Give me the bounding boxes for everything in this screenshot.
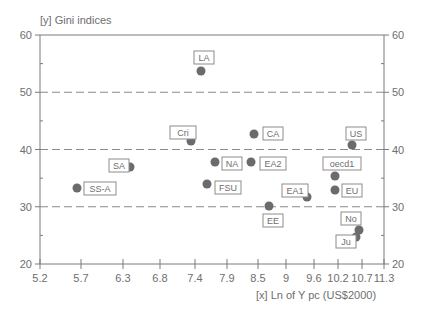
point-label: oecd1 — [330, 159, 355, 169]
point-label: SS-A — [89, 184, 110, 194]
x-tick-label: 7.9 — [219, 272, 234, 284]
data-point-cri: Cri — [170, 126, 196, 146]
point-marker — [211, 158, 220, 167]
data-point-ea2: EA2 — [247, 157, 287, 170]
point-marker — [265, 202, 274, 211]
data-point-ca: CA — [250, 127, 284, 140]
point-label: CA — [267, 129, 280, 139]
point-marker — [197, 67, 206, 76]
data-point-ea1: EA1 — [282, 184, 312, 202]
y-tick-label-right: 40 — [392, 144, 404, 156]
y-tick-label: 50 — [20, 86, 32, 98]
x-axis-title: [x] Ln of Y pc (US$2000) — [256, 289, 376, 301]
point-marker — [331, 186, 340, 195]
point-marker — [331, 172, 340, 181]
y-tick-label-right: 50 — [392, 86, 404, 98]
data-point-fsu: FSU — [203, 180, 242, 195]
x-tick-label: 7.4 — [187, 272, 202, 284]
x-tick-label: 11.3 — [374, 272, 395, 284]
point-label: FSU — [219, 183, 237, 193]
point-label: Ju — [341, 237, 351, 247]
x-tick-label: 6.3 — [115, 272, 130, 284]
data-point-ss-a: SS-A — [73, 182, 117, 195]
x-tick-label: 10.2 — [327, 272, 348, 284]
point-label: EA2 — [264, 159, 281, 169]
y-tick-label: 60 — [20, 29, 32, 41]
point-marker — [73, 184, 82, 193]
x-tick-label: 5.2 — [32, 272, 47, 284]
x-tick-label: 9 — [283, 272, 289, 284]
scatter-chart: [y] Gini indices [x] Ln of Y pc (US$2000… — [0, 0, 423, 317]
point-label: LA — [198, 53, 209, 63]
point-label: NA — [226, 159, 239, 169]
x-tick-label: 5.7 — [73, 272, 88, 284]
data-point-ju: Ju — [336, 233, 361, 249]
x-tick-label: 9.6 — [306, 272, 321, 284]
data-point-us: US — [346, 127, 366, 150]
point-label: EU — [346, 186, 359, 196]
y-tick-label: 20 — [20, 258, 32, 270]
point-label: US — [350, 129, 363, 139]
point-label: SA — [113, 161, 125, 171]
point-label: No — [345, 214, 357, 224]
y-tick-label-right: 30 — [392, 201, 404, 213]
point-marker — [250, 130, 259, 139]
data-point-na: NA — [211, 157, 243, 170]
x-tick-label: 10.7 — [351, 272, 372, 284]
point-label: Cri — [177, 128, 189, 138]
chart-canvas: [y] Gini indices [x] Ln of Y pc (US$2000… — [0, 0, 423, 317]
y-tick-label: 30 — [20, 201, 32, 213]
data-point-no: No — [341, 212, 364, 235]
data-point-eu: EU — [331, 184, 363, 197]
point-marker — [348, 141, 357, 150]
x-axis-ticks: 5.25.76.36.87.47.98.599.610.210.711.3 — [32, 259, 394, 284]
point-marker — [203, 180, 212, 189]
data-point-la: LA — [194, 51, 214, 76]
y-tick-label: 40 — [20, 144, 32, 156]
data-point-ee: EE — [263, 202, 283, 228]
point-marker — [247, 158, 256, 167]
data-point-oecd1: oecd1 — [323, 157, 361, 181]
data-point-sa: SA — [109, 159, 135, 172]
point-label: EE — [267, 216, 279, 226]
y-tick-label-right: 60 — [392, 29, 404, 41]
x-tick-label: 6.8 — [152, 272, 167, 284]
x-tick-label: 8.5 — [250, 272, 265, 284]
y-tick-label-right: 20 — [392, 258, 404, 270]
point-label: EA1 — [286, 186, 303, 196]
y-axis-title: [y] Gini indices — [40, 14, 112, 26]
